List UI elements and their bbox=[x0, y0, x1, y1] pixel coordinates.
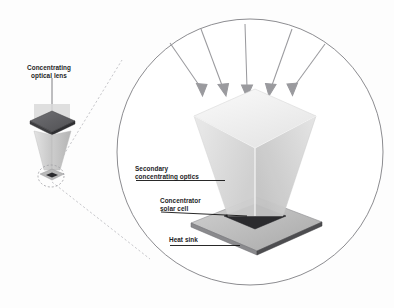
cpv-diagram-figure: Concentrating optical lens Secondary con… bbox=[0, 0, 394, 308]
diagram-canvas bbox=[0, 0, 394, 308]
small-lens-assembly bbox=[30, 78, 75, 187]
